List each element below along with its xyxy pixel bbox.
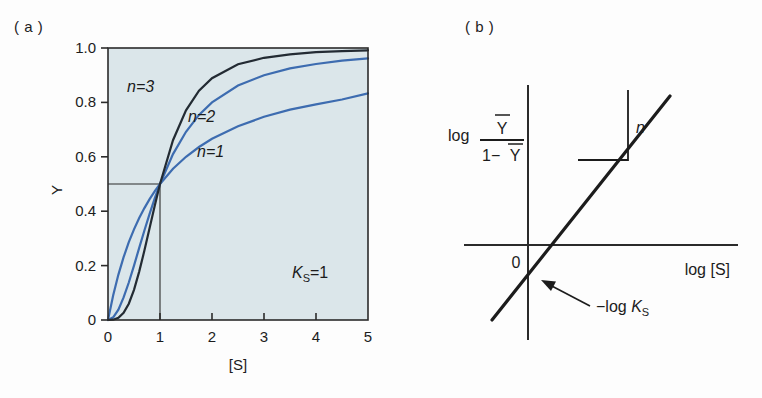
panel-b-label: ( b ) (465, 18, 494, 35)
y-tick-labels: 1.0 0.8 0.6 0.4 0.2 0 (75, 39, 96, 328)
y-tick-label: 1.0 (75, 39, 96, 56)
x-tick-label: 0 (104, 328, 112, 345)
ks-subscript: S (303, 272, 310, 284)
ks-value: =1 (310, 264, 328, 281)
slope-bracket (578, 90, 628, 160)
curve-label-n3: n=3 (127, 78, 154, 95)
neg-log-ks-minus: − (596, 298, 605, 315)
y-tick-label: 0.8 (75, 93, 96, 110)
panel-a-y-axis-title: Y (48, 185, 65, 195)
x-tick-label: 1 (156, 328, 164, 345)
panel-b-plot: n 0 log Y 1− Y log [S] (420, 0, 762, 398)
origin-label: 0 (512, 254, 521, 271)
panel-b: ( b ) n 0 log Y 1− Y (420, 0, 762, 398)
y-tick-label: 0.2 (75, 257, 96, 274)
panel-a: ( a ) (0, 0, 420, 398)
x-tick-label: 3 (260, 328, 268, 345)
curve-label-n1: n=1 (197, 143, 224, 160)
panel-b-y-axis-title: log Y 1− Y (448, 115, 524, 164)
denominator-lead: 1− (482, 147, 500, 164)
x-tick-labels: 0 1 2 3 4 5 (104, 328, 372, 345)
y-tick-label: 0.4 (75, 202, 96, 219)
x-tick-label: 2 (208, 328, 216, 345)
panel-a-label: ( a ) (14, 18, 43, 35)
intercept-arrow (541, 280, 590, 306)
figure-root: ( a ) (0, 0, 762, 398)
panel-a-plot: 1.0 0.8 0.6 0.4 0.2 0 0 1 2 3 4 5 Y [S] … (0, 0, 420, 398)
log-word: log (448, 127, 469, 144)
y-tick-label: 0.6 (75, 148, 96, 165)
y-tick-label: 0 (88, 311, 96, 328)
x-tick-label: 5 (364, 328, 372, 345)
x-tick-label: 4 (312, 328, 320, 345)
neg-log-ks-subscript: S (642, 306, 649, 318)
numerator-y: Y (497, 120, 508, 137)
denominator-y: Y (510, 147, 521, 164)
neg-log-ks-annotation: −log KS (596, 298, 649, 318)
y-axis-ticks (101, 48, 108, 320)
curve-label-n2: n=2 (188, 108, 215, 125)
neg-log-ks-log: log (605, 298, 631, 315)
slope-label-n: n (636, 119, 645, 136)
panel-b-x-axis-title: log [S] (685, 261, 730, 278)
panel-a-x-axis-title: [S] (229, 356, 247, 373)
